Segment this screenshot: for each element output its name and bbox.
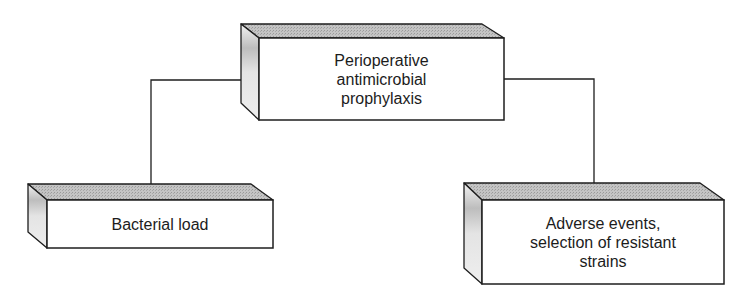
box-top-face xyxy=(28,184,273,200)
node-label-perioperative-antimicrobial-prophylaxis: Perioperative antimicrobial prophylaxis xyxy=(259,38,504,120)
node-label-bacterial-load: Bacterial load xyxy=(47,200,273,248)
connector-root-left xyxy=(151,80,241,184)
box-top-face xyxy=(241,24,504,38)
node-label-adverse-events: Adverse events, selection of resistant s… xyxy=(482,200,724,284)
connector-root-right xyxy=(504,79,594,183)
box-side-face xyxy=(241,24,259,120)
box-side-face xyxy=(464,183,482,284)
box-top-face xyxy=(464,183,724,200)
